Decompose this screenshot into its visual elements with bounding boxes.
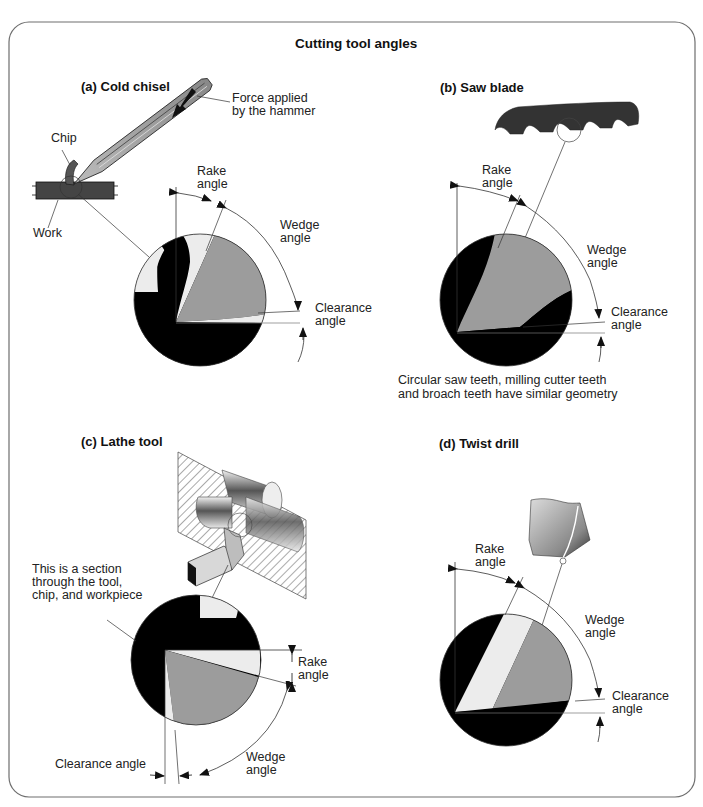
c-rake-label-2: angle: [298, 669, 329, 682]
panel-a-cold-chisel: [32, 76, 304, 383]
force-label-2: by the hammer: [232, 105, 315, 118]
panel-c-heading: (c) Lathe tool: [81, 434, 163, 449]
section-label-3: chip, and workpiece: [32, 589, 142, 602]
d-wedge-label-2: angle: [585, 627, 616, 640]
panel-a-heading: (a) Cold chisel: [81, 79, 170, 94]
c-wedge-label-2: angle: [246, 764, 277, 777]
panel-b-heading: (b) Saw blade: [440, 80, 524, 95]
diagram-canvas: [0, 0, 703, 807]
figure-frame: [9, 22, 695, 797]
d-clearance-label-2: angle: [612, 703, 643, 716]
a-wedge-label-2: angle: [280, 232, 311, 245]
chip-label: Chip: [51, 132, 77, 145]
panel-c-lathe-tool: [107, 452, 306, 784]
c-clearance-label: Clearance angle: [55, 758, 146, 771]
saw-note-2: and broach teeth have similar geometry: [398, 388, 618, 402]
saw-note-1: Circular saw teeth, milling cutter teeth: [398, 374, 606, 388]
d-rake-label-2: angle: [475, 556, 506, 569]
figure-title: Cutting tool angles: [295, 36, 417, 51]
b-rake-label-2: angle: [482, 177, 513, 190]
panel-b-saw-blade: [438, 102, 639, 372]
b-clearance-label-2: angle: [611, 319, 642, 332]
b-wedge-label-2: angle: [587, 257, 618, 270]
work-label: Work: [33, 227, 62, 240]
panel-d-heading: (d) Twist drill: [439, 436, 519, 451]
a-clearance-label-2: angle: [315, 315, 346, 328]
panel-d-twist-drill: [438, 499, 605, 752]
a-rake-label-2: angle: [197, 178, 228, 191]
